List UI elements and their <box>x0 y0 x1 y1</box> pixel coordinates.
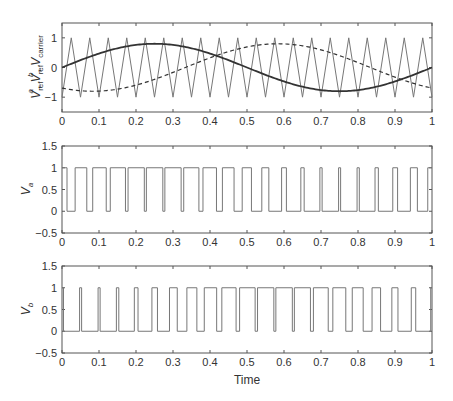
x-tick-label: 0.1 <box>91 236 106 248</box>
x-axis-label: Time <box>234 373 261 387</box>
x-tick-label: 0.3 <box>165 356 180 368</box>
x-tick-label: 0.4 <box>202 356 217 368</box>
vb-pwm-line <box>62 288 432 332</box>
y-axis-label: Vrefa, Vrefb, Vcarrier <box>26 35 45 99</box>
x-tick-label: 1 <box>429 236 435 248</box>
plot-frame <box>62 266 432 353</box>
x-tick-label: 0.3 <box>165 115 180 127</box>
x-tick-label: 0.8 <box>350 236 365 248</box>
y-tick-label: 0.5 <box>42 304 57 316</box>
plot-curves <box>62 168 432 212</box>
x-tick-label: 0.2 <box>128 115 143 127</box>
x-tick-label: 0.2 <box>128 356 143 368</box>
plot-curves <box>62 38 432 97</box>
y-axis-label: Va <box>19 182 35 195</box>
y-tick-label: 0 <box>51 325 57 337</box>
y-tick-label: 1 <box>51 282 57 294</box>
x-tick-label: 0.1 <box>91 115 106 127</box>
x-tick-label: 0.5 <box>239 356 254 368</box>
figure: 00.10.20.30.40.50.60.70.80.91−101 Vrefa,… <box>0 0 453 401</box>
x-tick-label: 0.9 <box>387 236 402 248</box>
plot-frame <box>62 146 432 233</box>
reference-carrier-plot: 00.10.20.30.40.50.60.70.80.91−101 Vrefa,… <box>26 23 435 127</box>
x-tick-label: 0.7 <box>313 236 328 248</box>
va-pwm-plot: 00.10.20.30.40.50.60.70.80.91−0.500.511.… <box>19 140 435 248</box>
y-tick-label: −1 <box>44 91 57 103</box>
x-tick-label: 0.4 <box>202 236 217 248</box>
vb-pwm-plot: 00.10.20.30.40.50.60.70.80.91−0.500.511.… <box>19 260 435 368</box>
x-tick-label: 0.2 <box>128 236 143 248</box>
axis-ticks: 00.10.20.30.40.50.60.70.80.91−0.500.511.… <box>35 260 435 368</box>
x-tick-label: 1 <box>429 356 435 368</box>
x-tick-label: 0.8 <box>350 115 365 127</box>
y-tick-label: 0 <box>51 62 57 74</box>
x-tick-label: 0.5 <box>239 115 254 127</box>
x-tick-label: 0.6 <box>276 115 291 127</box>
y-tick-label: 0 <box>51 205 57 217</box>
x-tick-label: 0.5 <box>239 236 254 248</box>
y-tick-label: 1 <box>51 162 57 174</box>
x-tick-label: 0.1 <box>91 356 106 368</box>
y-tick-label: 0.5 <box>42 184 57 196</box>
x-tick-label: 0.7 <box>313 356 328 368</box>
x-tick-label: 1 <box>429 115 435 127</box>
x-tick-label: 0.4 <box>202 115 217 127</box>
y-tick-label: −0.5 <box>35 227 57 239</box>
x-tick-label: 0 <box>59 236 65 248</box>
reference-a-line <box>62 44 432 91</box>
y-tick-label: −0.5 <box>35 347 57 359</box>
y-tick-label: 1 <box>51 32 57 44</box>
x-tick-label: 0 <box>59 356 65 368</box>
axis-ticks: 00.10.20.30.40.50.60.70.80.91−101 <box>44 23 435 127</box>
x-tick-label: 0.6 <box>276 356 291 368</box>
y-tick-label: 1.5 <box>42 140 57 152</box>
x-tick-label: 0.8 <box>350 356 365 368</box>
x-tick-label: 0.6 <box>276 236 291 248</box>
x-tick-label: 0 <box>59 115 65 127</box>
x-tick-label: 0.7 <box>313 115 328 127</box>
x-tick-label: 0.9 <box>387 356 402 368</box>
y-tick-label: 1.5 <box>42 260 57 272</box>
plot-curves <box>62 288 432 332</box>
va-pwm-line <box>62 168 432 212</box>
x-tick-label: 0.9 <box>387 115 402 127</box>
y-axis-label: Vb <box>19 302 35 315</box>
x-tick-label: 0.3 <box>165 236 180 248</box>
